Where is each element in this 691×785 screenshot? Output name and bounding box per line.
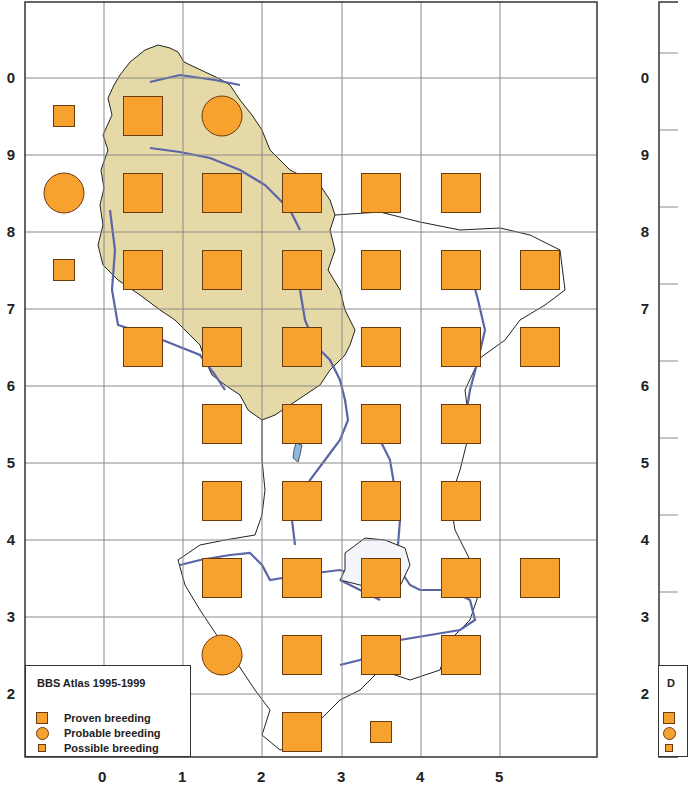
x-label: 4 [416, 768, 424, 785]
legend-label: Possible breeding [64, 742, 159, 754]
y-label: 2 [635, 685, 655, 702]
y-label: 8 [635, 223, 655, 240]
circle-icon [661, 727, 677, 740]
small-square-icon [661, 744, 677, 752]
proven-breeding-square [124, 328, 163, 367]
proven-breeding-square [362, 405, 401, 444]
legend-label: Probable breeding [64, 727, 161, 739]
probable-breeding-circle [202, 635, 242, 675]
proven-breeding-square [124, 97, 163, 136]
legend-item-proven: Proven breeding [34, 711, 151, 725]
legend-title: D [667, 677, 675, 689]
proven-breeding-square [442, 636, 481, 675]
proven-breeding-square [362, 482, 401, 521]
proven-breeding-square [203, 405, 242, 444]
proven-breeding-square [124, 251, 163, 290]
proven-breeding-square [203, 559, 242, 598]
y-label: 6 [635, 377, 655, 394]
legend-item-possible: Possible breeding [34, 741, 159, 755]
right-map-grid [659, 53, 678, 592]
proven-breeding-square [283, 559, 322, 598]
x-label: 3 [337, 768, 345, 785]
possible-breeding-square [54, 260, 75, 281]
proven-breeding-square [362, 559, 401, 598]
y-label: 6 [1, 377, 21, 394]
probable-breeding-circle [44, 173, 84, 213]
y-label: 0 [635, 69, 655, 86]
proven-breeding-square [283, 405, 322, 444]
square-icon [661, 712, 677, 724]
proven-breeding-square [442, 251, 481, 290]
probable-breeding-circle [202, 96, 242, 136]
proven-breeding-square [203, 174, 242, 213]
circle-icon [34, 727, 50, 740]
y-label: 4 [635, 531, 655, 548]
legend-label: Proven breeding [64, 712, 151, 724]
proven-breeding-square [442, 559, 481, 598]
proven-breeding-square [283, 328, 322, 367]
proven-breeding-square [362, 174, 401, 213]
proven-breeding-square [203, 482, 242, 521]
y-label: 3 [1, 608, 21, 625]
right-map-legend: D [658, 665, 688, 757]
proven-breeding-square [283, 713, 322, 752]
possible-breeding-square [54, 106, 75, 127]
y-label: 2 [1, 685, 21, 702]
proven-breeding-square [283, 174, 322, 213]
legend-item-possible [661, 741, 691, 755]
small-square-icon [34, 744, 50, 752]
y-label: 5 [635, 454, 655, 471]
legend-item-proven [661, 711, 691, 725]
y-label: 5 [1, 454, 21, 471]
y-label: 8 [1, 223, 21, 240]
y-label: 4 [1, 531, 21, 548]
y-label: 9 [635, 146, 655, 163]
y-label: 7 [1, 300, 21, 317]
proven-breeding-square [362, 251, 401, 290]
x-label: 1 [178, 768, 186, 785]
legend-title: BBS Atlas 1995-1999 [37, 677, 145, 689]
proven-breeding-square [203, 328, 242, 367]
y-label: 7 [635, 300, 655, 317]
proven-breeding-square [521, 251, 560, 290]
square-icon [34, 712, 50, 724]
proven-breeding-square [442, 482, 481, 521]
map-legend: BBS Atlas 1995-1999 Proven breeding Prob… [25, 665, 191, 757]
proven-breeding-square [362, 636, 401, 675]
x-label: 5 [495, 768, 503, 785]
legend-item-probable: Probable breeding [34, 726, 161, 740]
x-label: 0 [98, 768, 106, 785]
proven-breeding-square [124, 174, 163, 213]
right-map-frame [659, 2, 678, 757]
y-label: 0 [1, 69, 21, 86]
proven-breeding-square [362, 328, 401, 367]
proven-breeding-square [283, 482, 322, 521]
x-label: 2 [257, 768, 265, 785]
proven-breeding-square [283, 251, 322, 290]
proven-breeding-square [283, 636, 322, 675]
proven-breeding-square [521, 559, 560, 598]
proven-breeding-square [203, 251, 242, 290]
y-label: 3 [635, 608, 655, 625]
y-label: 9 [1, 146, 21, 163]
possible-breeding-square [371, 722, 392, 743]
proven-breeding-square [442, 405, 481, 444]
proven-breeding-square [442, 174, 481, 213]
proven-breeding-square [521, 328, 560, 367]
lake [293, 443, 302, 462]
legend-item-probable [661, 726, 691, 740]
proven-breeding-square [442, 328, 481, 367]
